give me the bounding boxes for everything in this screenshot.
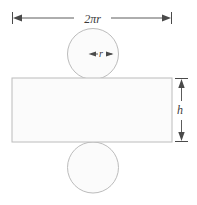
height-dimension-label: h [177,103,183,117]
lateral-surface-rectangle [12,78,172,142]
height-dimension-top-arrowhead [178,79,184,88]
cylinder-net-figure: 2πr r h [0,0,197,205]
width-dimension-left-arrowhead [13,15,22,22]
figure-canvas: 2πr r h [0,0,197,205]
radius-dimension-label: r [99,48,103,59]
height-dimension: h [175,79,188,142]
width-dimension-right-arrowhead [162,15,171,22]
width-dimension: 2πr [13,12,172,26]
bottom-circle-base [68,142,119,193]
width-dimension-label: 2πr [84,12,101,26]
height-dimension-bottom-arrowhead [178,132,184,141]
